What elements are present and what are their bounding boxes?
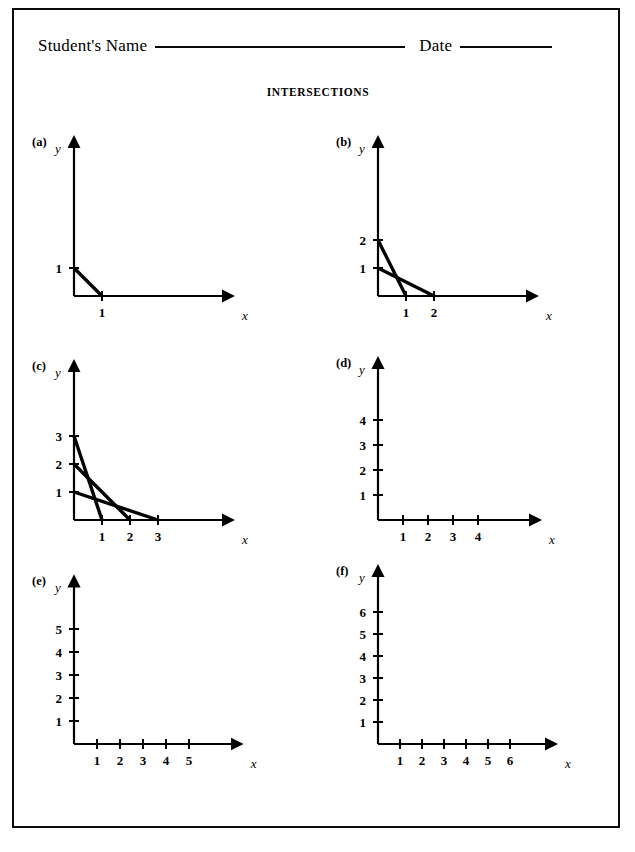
- student-name-label: Student's Name: [38, 36, 147, 56]
- x-tick-label: 4: [463, 753, 470, 768]
- x-axis-label: x: [250, 756, 257, 771]
- y-tick-label: 3: [56, 668, 63, 683]
- coordinate-plane-d: 12341234xy: [318, 338, 622, 562]
- x-tick-label: 4: [163, 753, 170, 768]
- panel-d: (d)12341234xy: [318, 338, 622, 562]
- x-axis-label: x: [564, 756, 571, 771]
- x-tick-label: 4: [475, 529, 482, 544]
- line-segment: [74, 268, 102, 296]
- y-tick-label: 2: [360, 693, 367, 708]
- y-tick-label: 1: [360, 261, 367, 276]
- x-tick-label: 1: [400, 529, 407, 544]
- y-tick-label: 5: [56, 622, 63, 637]
- line-segment: [74, 464, 130, 520]
- x-tick-label: 1: [99, 305, 106, 320]
- panel-grid: (a)11xy (b)1212xy (c)123123xy (d)1234123…: [14, 114, 622, 786]
- y-tick-label: 3: [360, 438, 367, 453]
- worksheet-header: Student's Name Date: [38, 36, 604, 68]
- y-tick-label: 1: [360, 715, 367, 730]
- student-name-blank[interactable]: [155, 46, 405, 48]
- x-axis-label: x: [548, 532, 555, 547]
- y-axis-label: y: [357, 141, 365, 156]
- y-tick-label: 2: [360, 463, 367, 478]
- y-tick-label: 3: [360, 671, 367, 686]
- coordinate-plane-f: 123456123456xy: [318, 562, 622, 786]
- panel-b: (b)1212xy: [318, 114, 622, 338]
- x-tick-label: 6: [507, 753, 514, 768]
- x-tick-label: 5: [186, 753, 193, 768]
- y-tick-label: 2: [360, 233, 367, 248]
- x-tick-label: 2: [419, 753, 426, 768]
- x-axis-label: x: [545, 308, 552, 323]
- date-label: Date: [419, 36, 452, 56]
- y-tick-label: 2: [56, 457, 63, 472]
- panel-row-3: (e)1234512345xy (f)123456123456xy: [14, 562, 622, 786]
- panel-e: (e)1234512345xy: [14, 562, 318, 786]
- y-axis-label: y: [53, 365, 61, 380]
- date-blank[interactable]: [460, 46, 552, 48]
- y-axis-label: y: [357, 362, 365, 377]
- x-tick-label: 2: [127, 529, 134, 544]
- x-tick-label: 1: [99, 529, 106, 544]
- y-tick-label: 5: [360, 627, 367, 642]
- x-axis-label: x: [241, 308, 248, 323]
- x-tick-label: 3: [155, 529, 162, 544]
- coordinate-plane-c: 123123xy: [14, 338, 318, 562]
- y-tick-label: 6: [360, 605, 367, 620]
- x-tick-label: 3: [450, 529, 457, 544]
- x-axis-label: x: [241, 532, 248, 547]
- coordinate-plane-e: 1234512345xy: [14, 562, 318, 786]
- y-axis-label: y: [53, 141, 61, 156]
- y-tick-label: 4: [360, 413, 367, 428]
- x-tick-label: 1: [397, 753, 404, 768]
- worksheet-frame: Student's Name Date INTERSECTIONS (a)11x…: [12, 8, 620, 828]
- x-tick-label: 2: [431, 305, 438, 320]
- y-tick-label: 1: [56, 714, 63, 729]
- y-tick-label: 4: [360, 649, 367, 664]
- x-tick-label: 3: [140, 753, 147, 768]
- panel-a: (a)11xy: [14, 114, 318, 338]
- x-tick-label: 2: [117, 753, 124, 768]
- x-tick-label: 3: [441, 753, 448, 768]
- y-tick-label: 1: [56, 261, 63, 276]
- y-tick-label: 4: [56, 645, 63, 660]
- x-tick-label: 5: [485, 753, 492, 768]
- page-title: INTERSECTIONS: [14, 86, 622, 98]
- coordinate-plane-a: 11xy: [14, 114, 318, 338]
- panel-c: (c)123123xy: [14, 338, 318, 562]
- x-tick-label: 2: [425, 529, 432, 544]
- panel-f: (f)123456123456xy: [318, 562, 622, 786]
- panel-row-1: (a)11xy (b)1212xy: [14, 114, 622, 338]
- coordinate-plane-b: 1212xy: [318, 114, 622, 338]
- y-tick-label: 1: [360, 488, 367, 503]
- y-tick-label: 1: [56, 485, 63, 500]
- y-axis-label: y: [357, 570, 365, 585]
- y-tick-label: 3: [56, 429, 63, 444]
- y-axis-label: y: [53, 580, 61, 595]
- x-tick-label: 1: [403, 305, 410, 320]
- line-segment: [74, 492, 158, 520]
- x-tick-label: 1: [94, 753, 101, 768]
- y-tick-label: 2: [56, 691, 63, 706]
- panel-row-2: (c)123123xy (d)12341234xy: [14, 338, 622, 562]
